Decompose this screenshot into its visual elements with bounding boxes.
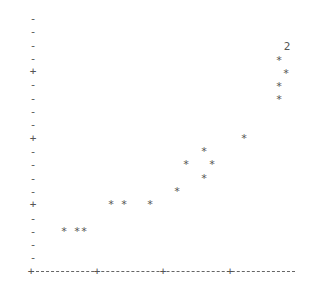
data-point-star: * xyxy=(174,185,181,198)
y-minor-tick: - xyxy=(30,225,37,238)
data-point-star: * xyxy=(183,158,190,171)
x-major-tick: + xyxy=(94,265,101,278)
data-point-star: * xyxy=(209,158,216,171)
ascii-scatter-plot: ----+----+----+---- ++++ ***************… xyxy=(0,0,309,291)
data-point-star: * xyxy=(74,225,81,238)
y-major-tick: + xyxy=(30,198,37,211)
data-point-star: * xyxy=(201,172,208,185)
data-point-star: * xyxy=(121,198,128,211)
data-point-star: * xyxy=(276,93,283,106)
y-minor-tick: - xyxy=(30,172,37,185)
data-point-count: 2 xyxy=(284,40,291,53)
data-point-star: * xyxy=(147,198,154,211)
y-minor-tick: - xyxy=(30,105,37,118)
y-minor-tick: - xyxy=(30,251,37,264)
data-point-star: * xyxy=(276,54,283,67)
data-point-star: * xyxy=(241,132,248,145)
y-minor-tick: - xyxy=(30,12,37,25)
y-minor-tick: - xyxy=(30,238,37,251)
y-minor-tick: - xyxy=(30,52,37,65)
data-point-star: * xyxy=(276,80,283,93)
data-point-star: * xyxy=(108,198,115,211)
data-point-star: * xyxy=(201,145,208,158)
data-point-star: * xyxy=(81,225,88,238)
x-major-tick: + xyxy=(160,265,167,278)
data-point-star: * xyxy=(61,225,68,238)
x-major-tick: + xyxy=(28,265,35,278)
y-minor-tick: - xyxy=(30,185,37,198)
data-point-star: * xyxy=(283,67,290,80)
y-minor-tick: - xyxy=(30,92,37,105)
y-major-tick: + xyxy=(30,65,37,78)
x-major-tick: + xyxy=(227,265,234,278)
y-minor-tick: - xyxy=(30,212,37,225)
y-minor-tick: - xyxy=(30,158,37,171)
y-minor-tick: - xyxy=(30,78,37,91)
y-minor-tick: - xyxy=(30,118,37,131)
y-minor-tick: - xyxy=(30,39,37,52)
y-major-tick: + xyxy=(30,132,37,145)
y-minor-tick: - xyxy=(30,25,37,38)
y-minor-tick: - xyxy=(30,145,37,158)
